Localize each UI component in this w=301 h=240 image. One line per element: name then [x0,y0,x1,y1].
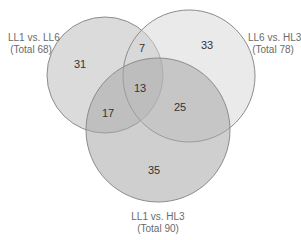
set-name: LL6 vs. HL3 [248,32,298,44]
region-a-b: 7 [139,42,145,54]
region-a-b-c: 13 [134,82,146,94]
set-total: (Total 90) [128,223,188,235]
region-b-only: 33 [201,39,213,51]
region-b-c: 25 [174,101,186,113]
region-c-only: 35 [148,164,160,176]
set-label-ll6-vs-hl3: LL6 vs. HL3 (Total 78) [248,32,298,56]
set-name: LL1 vs. HL3 [128,211,188,223]
set-name: LL1 vs. LL6 [8,32,54,44]
region-a-only: 31 [74,58,86,70]
set-label-ll1-vs-ll6: LL1 vs. LL6 (Total 68) [8,32,54,56]
set-total: (Total 68) [8,44,54,56]
set-label-ll1-vs-hl3: LL1 vs. HL3 (Total 90) [128,211,188,235]
circle-ll1-vs-hl3 [86,58,230,202]
region-a-c: 17 [102,107,114,119]
set-total: (Total 78) [248,44,298,56]
